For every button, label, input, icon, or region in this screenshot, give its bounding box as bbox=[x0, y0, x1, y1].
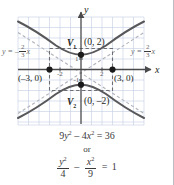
fraction-rhs: 1 bbox=[110, 161, 117, 172]
fraction-left: y2 4 bbox=[57, 157, 69, 179]
vertex-upper-coords: (0, 2) bbox=[84, 38, 105, 48]
y-axis-label: y bbox=[84, 5, 88, 15]
x-tick-label-neg2: -2 bbox=[57, 71, 63, 78]
fraction-left-numerator: y2 bbox=[57, 157, 69, 169]
y-tick-label-neg1: -1 bbox=[74, 77, 80, 84]
vertex-upper-tag-index: 1 bbox=[73, 44, 76, 50]
covertex-right-coords: (3, 0) bbox=[114, 74, 134, 83]
asymptote-left-label: y = – 2 3 x bbox=[2, 44, 30, 60]
asymptote-left-prefix: y = – bbox=[2, 47, 19, 56]
eq-rhs: 36 bbox=[105, 130, 115, 141]
fraction-operator: – bbox=[71, 161, 82, 172]
y-tick-label-1: 1 bbox=[75, 56, 79, 63]
eq-x-power: 2 bbox=[91, 129, 94, 136]
point-covertex-right bbox=[109, 66, 115, 72]
asymptote-right-prefix: y = bbox=[131, 47, 144, 56]
fraction-left-num-power: 2 bbox=[64, 155, 67, 162]
x-tick-label-2: 2 bbox=[100, 71, 104, 78]
eq-equals: = bbox=[97, 130, 103, 141]
vertex-upper-tag: V1 bbox=[67, 39, 76, 49]
vertex-lower-tag: V2 bbox=[67, 98, 76, 108]
page-edge-rule bbox=[173, 0, 174, 185]
fraction-left-denominator: 4 bbox=[57, 169, 69, 180]
eq-minus: – bbox=[74, 130, 79, 141]
hyperbola-figure: y x -2 2 1 -1 V1 (0, 2) V2 (0, –2) (–3, … bbox=[0, 0, 174, 185]
equation-fraction-form: y2 4 – x2 9 = 1 bbox=[0, 157, 174, 179]
x-axis-label: x bbox=[155, 65, 159, 75]
asymptote-right-suffix: x bbox=[151, 47, 155, 56]
eq-y-power: 2 bbox=[69, 129, 72, 136]
fraction-right-numerator: x2 bbox=[85, 157, 97, 169]
fraction-right: x2 9 bbox=[85, 157, 97, 179]
fraction-right-num-power: 2 bbox=[91, 155, 94, 162]
covertex-left-coords: (–3, 0) bbox=[18, 74, 42, 83]
vertex-lower-coords: (0, –2) bbox=[84, 97, 109, 107]
equation-connector: or bbox=[0, 144, 174, 154]
point-covertex-left bbox=[46, 66, 52, 72]
fraction-right-denominator: 9 bbox=[85, 169, 97, 180]
asymptote-left-suffix: x bbox=[26, 47, 30, 56]
asymptote-right-label: y = 2 3 x bbox=[131, 44, 155, 60]
fraction-equals: = bbox=[99, 161, 108, 172]
vertex-lower-tag-index: 2 bbox=[73, 103, 76, 109]
equation-standard-form: 9y2 – 4x2 = 36 bbox=[0, 130, 174, 141]
